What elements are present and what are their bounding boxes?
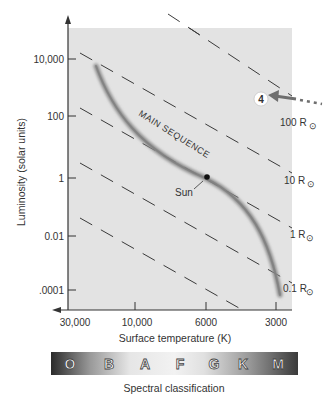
svg-text:100 R: 100 R bbox=[280, 117, 307, 128]
spectral-class-g: G bbox=[209, 356, 220, 372]
x-tick-3000: 3000 bbox=[265, 317, 288, 328]
sun-label: Sun bbox=[175, 187, 193, 198]
spectral-class-f: F bbox=[176, 356, 185, 372]
y-tick-001: 0.01 bbox=[45, 231, 65, 242]
x-tick-30000: 30,000 bbox=[60, 317, 91, 328]
plot-area bbox=[68, 28, 292, 310]
svg-text:1 R: 1 R bbox=[290, 229, 306, 240]
x-axis-label: Surface temperature (K) bbox=[119, 332, 232, 344]
sun-symbol-icon: ⊙ bbox=[307, 179, 315, 189]
spectral-class-a: A bbox=[140, 356, 150, 372]
svg-text:0.1 R: 0.1 R bbox=[283, 283, 307, 294]
y-tick-100: 100 bbox=[47, 111, 64, 122]
spectral-class-m: M bbox=[272, 356, 284, 372]
svg-text:4: 4 bbox=[258, 94, 264, 105]
spectral-class-k: K bbox=[238, 356, 248, 372]
sun-symbol-icon: ⊙ bbox=[306, 233, 314, 243]
spectral-bar: O B A F G K M bbox=[51, 352, 298, 375]
sun-marker bbox=[204, 174, 210, 180]
y-tick-10000: 10,000 bbox=[33, 54, 64, 65]
spectral-label: Spectral classification bbox=[124, 382, 225, 394]
spectral-class-b: B bbox=[104, 356, 114, 372]
x-tick-6000: 6000 bbox=[195, 317, 218, 328]
hr-diagram: MAIN SEQUENCE Sun 10,000 100 1 0.01 .000… bbox=[0, 0, 329, 404]
sun-symbol-icon: ⊙ bbox=[306, 287, 314, 297]
x-tick-10000: 10,000 bbox=[122, 317, 153, 328]
y-tick-00001: .0001 bbox=[39, 285, 64, 296]
sun-symbol-icon: ⊙ bbox=[309, 121, 317, 131]
y-axis-label: Luminosity (solar units) bbox=[15, 118, 27, 226]
y-tick-1: 1 bbox=[58, 173, 64, 184]
spectral-class-o: O bbox=[65, 356, 76, 372]
svg-text:10 R: 10 R bbox=[284, 175, 305, 186]
